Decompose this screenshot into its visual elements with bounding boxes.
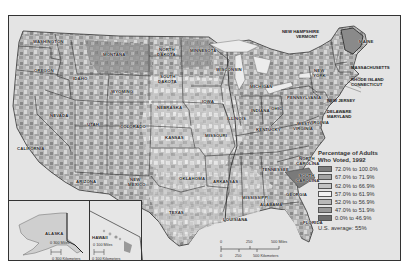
legend-swatch [318,166,332,172]
state-label: WYOMING [111,90,133,94]
legend-swatch [318,207,332,213]
state-label: CAROLINA [296,162,319,166]
legend-row: 62.0% to 66.9% [318,182,398,189]
legend-swatch [318,191,332,197]
state-label: WISCONSIN [216,68,242,72]
legend-label: 57.0% to 61.9% [335,191,375,197]
state-label: DAKOTA [158,80,177,84]
legend-row: 52.0% to 56.9% [318,199,398,206]
state-label: VIRGINIA [309,121,329,125]
state-label: COLORADO [120,125,146,129]
state-label: ARIZONA [76,180,96,184]
state-label: GEORGIA [286,193,307,197]
hawaii-inset: HAWAII 0 100 Miles 0 100 Kilometers [89,200,142,261]
scale-miles-250: 250 [246,240,252,244]
scale-bar-graphic [219,241,289,261]
label-new-jersey: NEW JERSEY [327,99,355,104]
legend-label: 72.0% to 100.0% [335,166,378,172]
label-vermont: VERMONT [296,35,318,40]
alaska-miles-scale: 0 300 Miles [50,241,69,245]
legend-rows: 72.0% to 100.0%67.0% to 71.9%62.0% to 66… [318,166,398,222]
state-label: PENNSYLVANIA [287,96,321,100]
state-label: UTAH [87,123,99,127]
legend-row: 47.0% to 51.9% [318,207,398,214]
state-label: DAKOTA [157,53,176,57]
scale-bar: 0 250 500 Miles 0 250 500 Kilometers [219,241,289,261]
state-label: KENTUCKY [256,128,281,132]
state-label: TENNESSEE [262,168,289,172]
label-maryland: MARYLAND [327,115,351,120]
state-label: NEBRASKA [157,106,182,110]
legend-row: 57.0% to 61.9% [318,191,398,198]
state-label: MICHIGAN [250,85,273,89]
legend-row: 72.0% to 100.0% [318,166,398,173]
state-label: KANSAS [165,136,184,140]
hawaii-label: HAWAII [92,236,108,240]
legend-swatch [318,183,332,189]
legend-label: 62.0% to 66.9% [335,183,375,189]
hawaii-miles-scale: 0 100 Miles [93,243,112,247]
state-label: MINNESOTA [190,49,216,53]
state-label: MAINE [359,40,373,44]
state-label: CALIFORNIA [17,147,45,151]
us-average: U.S. average: 55% [318,225,398,231]
alaska-km-scale: 0 300 Kilometers [52,257,81,261]
state-label: LOUISIANA [223,218,248,222]
state-label: WASHINGTON [33,40,64,44]
state-label: MEXICO [128,183,146,187]
legend-label: 67.0% to 71.9% [335,174,375,180]
state-label: OHIO [271,107,282,111]
state-label: IDAHO [73,77,87,81]
scale-km-500: 500 Kilometers [253,254,278,258]
state-label: ARKANSAS [213,180,238,184]
state-label: NEVADA [50,114,68,118]
legend-title-line1: Percentage of Adults [318,150,398,157]
state-label: OKLAHOMA [179,177,205,181]
legend: Percentage of Adults Who Voted, 1992 72.… [318,150,398,231]
state-label: VIRGINIA [293,127,313,131]
hawaii-shape [90,201,143,261]
alaska-inset: ALASKA 0 300 Miles 0 300 Kilometers [8,200,90,261]
legend-label: 0.0% to 46.9% [335,215,371,221]
legend-label: 52.0% to 56.9% [335,199,375,205]
label-connecticut: CONNECTICUT [351,83,382,88]
legend-label: 47.0% to 51.9% [335,207,375,213]
alaska-label: ALASKA [45,232,64,236]
state-label: MISSISSIPPI [242,196,269,200]
legend-row: 0.0% to 46.9% [318,215,398,222]
legend-swatch [318,174,332,180]
hawaii-km-scale: 0 100 Kilometers [92,257,121,261]
state-label: ILLINOIS [227,117,246,121]
state-label: YORK [313,74,326,78]
state-label: CAROLINA [296,179,319,183]
state-label: OREGON [34,69,54,73]
state-label: INDIANA [251,109,270,113]
scale-miles-0: 0 [220,240,222,244]
scale-miles-500: 500 Miles [271,240,287,244]
state-label: TEXAS [169,211,184,215]
state-label: MONTANA [103,53,125,57]
label-massachusetts: MASSACHUSETTS [351,66,390,71]
legend-row: 67.0% to 71.9% [318,174,398,181]
state-label: IOWA [202,100,214,104]
legend-title-line2: Who Voted, 1992 [318,157,398,164]
scale-km-250: 250 [235,254,241,258]
scale-km-0: 0 [220,254,222,258]
legend-swatch [318,215,332,221]
state-label: MISSOURI [205,134,227,138]
state-label: ALABAMA [260,203,282,207]
legend-swatch [318,199,332,205]
legend-title: Percentage of Adults Who Voted, 1992 [318,150,398,164]
